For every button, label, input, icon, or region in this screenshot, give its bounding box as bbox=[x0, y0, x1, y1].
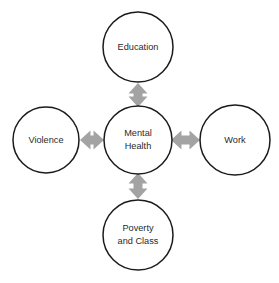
node-work-label: Work bbox=[224, 135, 246, 145]
node-work[interactable]: Work bbox=[200, 105, 270, 175]
arrow-violence-mental-health bbox=[80, 131, 104, 150]
arrow-mental-health-poverty bbox=[129, 173, 148, 199]
arrow-education-mental-health bbox=[129, 83, 148, 107]
node-mental-health-circle[interactable] bbox=[104, 106, 172, 174]
node-poverty-and-class-label-line2: and Class bbox=[118, 236, 159, 246]
diagram-canvas: Education Violence Mental Health Work Po… bbox=[0, 0, 279, 283]
node-poverty-and-class-circle[interactable] bbox=[103, 200, 173, 270]
arrow-mental-health-work bbox=[171, 131, 200, 150]
node-violence[interactable]: Violence bbox=[13, 107, 79, 173]
node-education[interactable]: Education bbox=[103, 12, 173, 82]
node-mental-health[interactable]: Mental Health bbox=[104, 106, 172, 174]
node-poverty-and-class-label-line1: Poverty bbox=[122, 223, 154, 233]
node-mental-health-label-line2: Health bbox=[125, 141, 152, 151]
node-education-label: Education bbox=[118, 42, 159, 52]
concept-diagram: Education Violence Mental Health Work Po… bbox=[0, 0, 279, 283]
node-violence-label: Violence bbox=[28, 135, 63, 145]
node-poverty-and-class[interactable]: Poverty and Class bbox=[103, 200, 173, 270]
node-mental-health-label-line1: Mental bbox=[124, 128, 152, 138]
